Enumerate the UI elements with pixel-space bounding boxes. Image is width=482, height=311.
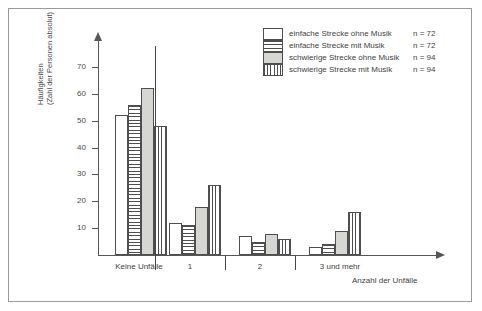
bar [348,212,361,255]
y-axis-tick [92,228,99,229]
legend-sample-size: n = 94 [413,53,435,62]
legend-item: schwierige Strecke ohne Musikn = 94 [263,52,453,64]
y-axis-tick [92,174,99,175]
x-axis-category-label: 2 [240,262,280,271]
legend-sample-size: n = 94 [413,65,435,74]
y-axis-title: Häufigkeiten (Zahl der Personen absolut) [36,0,54,105]
y-axis-tick [92,201,99,202]
y-axis-tick-label: 30 [62,170,86,178]
bar [208,185,221,255]
bar [335,231,348,255]
bar [115,115,128,255]
bar [195,207,208,255]
x-axis-category-label: Keine Unfälle [104,262,174,271]
bar [265,234,278,256]
category-separator [225,255,226,270]
legend-item: einfache Strecke mit Musikn = 72 [263,40,453,52]
bar [239,236,252,255]
bar [309,247,322,255]
legend-sample-size: n = 72 [413,41,435,50]
legend-item: einfache Strecke ohne Musikn = 72 [263,28,453,40]
bar [169,223,182,255]
chart-figure: 10203040506070 Häufigkeiten (Zahl der Pe… [0,0,482,311]
category-separator [155,46,156,270]
legend-label: einfache Strecke ohne Musik [289,29,392,38]
legend-swatch-icon [263,40,283,52]
y-axis-tick-label: 20 [62,197,86,205]
bar [322,244,335,255]
x-axis-category-label: 1 [170,262,210,271]
category-separator [295,255,296,270]
x-axis-line [98,255,438,256]
y-axis-title-line1: Häufigkeiten [36,0,45,105]
bar [182,225,195,255]
bar [278,239,291,255]
legend-sample-size: n = 72 [413,29,435,38]
y-axis-tick-label: 60 [62,90,86,98]
y-axis-tick-label: 10 [62,224,86,232]
legend-swatch-icon [263,64,283,76]
legend-label: schwierige Strecke ohne Musik [289,53,399,62]
bar [128,105,141,256]
x-axis-title: Anzahl der Unfälle [352,276,417,285]
y-axis-tick-label: 70 [62,63,86,71]
bar [141,88,154,255]
y-axis-tick [92,148,99,149]
legend-swatch-icon [263,28,283,40]
legend-item: schwierige Strecke mit Musikn = 94 [263,64,453,76]
y-axis-tick [92,94,99,95]
legend-label: schwierige Strecke mit Musik [289,65,392,74]
bar [252,242,265,255]
y-axis-title-line2: (Zahl der Personen absolut) [45,0,54,105]
legend-swatch-icon [263,52,283,64]
y-axis-tick [92,121,99,122]
x-axis-category-label: 3 und mehr [305,262,375,271]
y-axis-tick-label: 40 [62,144,86,152]
legend-label: einfache Strecke mit Musik [289,41,385,50]
y-axis-tick [92,67,99,68]
chart-legend: einfache Strecke ohne Musikn = 72einfach… [263,28,453,76]
y-axis-tick-label: 50 [62,117,86,125]
